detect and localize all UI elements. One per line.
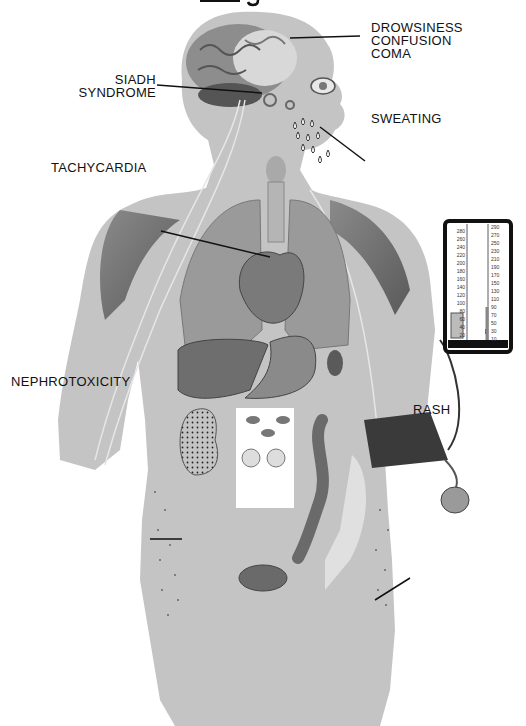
label-tachycardia: TACHYCARDIA bbox=[51, 162, 147, 174]
bladder bbox=[239, 565, 287, 591]
svg-text:70: 70 bbox=[491, 312, 497, 318]
kidney bbox=[180, 409, 218, 475]
svg-text:240: 240 bbox=[457, 244, 466, 250]
title-fragment bbox=[200, 0, 258, 5]
svg-text:90: 90 bbox=[491, 304, 497, 310]
mercury-column bbox=[486, 307, 489, 340]
svg-text:120: 120 bbox=[457, 292, 466, 298]
svg-text:250: 250 bbox=[491, 240, 500, 246]
label-rash: RASH bbox=[413, 404, 450, 416]
svg-text:160: 160 bbox=[457, 276, 466, 282]
svg-text:60: 60 bbox=[459, 316, 465, 322]
svg-text:230: 230 bbox=[491, 248, 500, 254]
svg-text:100: 100 bbox=[457, 300, 466, 306]
svg-text:260: 260 bbox=[457, 236, 466, 242]
svg-text:220: 220 bbox=[457, 252, 466, 258]
label-coma: COMA bbox=[371, 48, 411, 60]
svg-text:290: 290 bbox=[491, 224, 500, 230]
svg-text:200: 200 bbox=[457, 260, 466, 266]
svg-text:40: 40 bbox=[459, 324, 465, 330]
svg-text:20: 20 bbox=[459, 332, 465, 338]
svg-text:110: 110 bbox=[491, 296, 499, 302]
svg-text:170: 170 bbox=[491, 272, 500, 278]
svg-text:180: 180 bbox=[457, 268, 466, 274]
label-sweating: SWEATING bbox=[371, 113, 442, 125]
svg-text:190: 190 bbox=[491, 264, 500, 270]
sphygmomanometer: 28026024022020018016014012010080604020 2… bbox=[445, 221, 511, 352]
bp-bulb bbox=[441, 487, 469, 513]
label-syndrome: SYNDROME bbox=[78, 87, 156, 99]
svg-text:270: 270 bbox=[491, 232, 500, 238]
svg-text:50: 50 bbox=[491, 320, 497, 326]
body-illustration: 28026024022020018016014012010080604020 2… bbox=[0, 0, 526, 726]
svg-text:150: 150 bbox=[491, 280, 500, 286]
svg-text:10: 10 bbox=[491, 336, 497, 342]
svg-text:210: 210 bbox=[491, 256, 500, 262]
spleen bbox=[327, 350, 343, 376]
bp-cuff bbox=[364, 412, 448, 468]
svg-text:130: 130 bbox=[491, 288, 500, 294]
svg-text:30: 30 bbox=[491, 328, 497, 334]
label-nephrotoxicity: NEPHROTOXICITY bbox=[11, 376, 131, 388]
anatomy-diagram: 28026024022020018016014012010080604020 2… bbox=[0, 0, 526, 726]
svg-text:280: 280 bbox=[457, 228, 466, 234]
trachea bbox=[266, 156, 286, 242]
svg-text:80: 80 bbox=[459, 308, 465, 314]
svg-text:140: 140 bbox=[457, 284, 466, 290]
